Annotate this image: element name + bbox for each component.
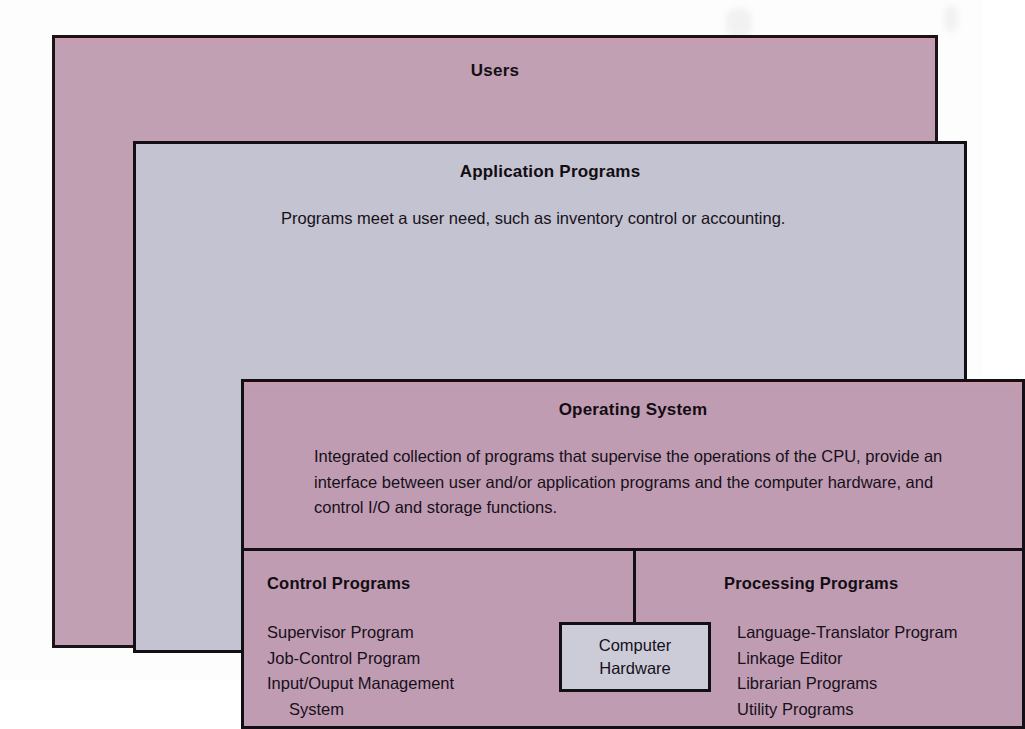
computer-hardware-box: Computer Hardware	[559, 622, 711, 692]
control-programs-list: Supervisor Program Job-Control Program I…	[267, 620, 454, 722]
list-item: Language-Translator Program	[737, 620, 957, 646]
control-programs-title: Control Programs	[267, 574, 410, 593]
operating-system-description: Integrated collection of programs that s…	[314, 444, 954, 521]
computer-hardware-connector-line	[633, 551, 636, 623]
operating-system-layer-box: Operating System Integrated collection o…	[241, 379, 1025, 729]
users-layer-box: Users Application Programs Programs meet…	[52, 35, 938, 648]
computer-hardware-label: Computer Hardware	[599, 634, 671, 680]
list-item: Utility Programs	[737, 697, 957, 723]
application-programs-description: Programs meet a user need, such as inven…	[281, 206, 881, 231]
computer-hardware-label-line1: Computer	[599, 636, 671, 654]
list-item: Linkage Editor	[737, 646, 957, 672]
list-item: Supervisor Program	[267, 620, 454, 646]
list-item: Librarian Programs	[737, 671, 957, 697]
scan-smudge-artifact	[944, 6, 958, 32]
application-programs-layer-box: Application Programs Programs meet a use…	[133, 141, 967, 653]
users-layer-title: Users	[55, 61, 935, 81]
list-item: System	[267, 697, 454, 723]
application-programs-title: Application Programs	[136, 162, 964, 182]
processing-programs-title: Processing Programs	[724, 574, 898, 593]
computer-hardware-label-line2: Hardware	[599, 659, 671, 677]
processing-programs-list: Language-Translator Program Linkage Edit…	[737, 620, 957, 722]
list-item: Job-Control Program	[267, 646, 454, 672]
list-item: Input/Ouput Management	[267, 671, 454, 697]
scan-smudge-artifact	[726, 8, 752, 38]
operating-system-title: Operating System	[244, 400, 1022, 420]
